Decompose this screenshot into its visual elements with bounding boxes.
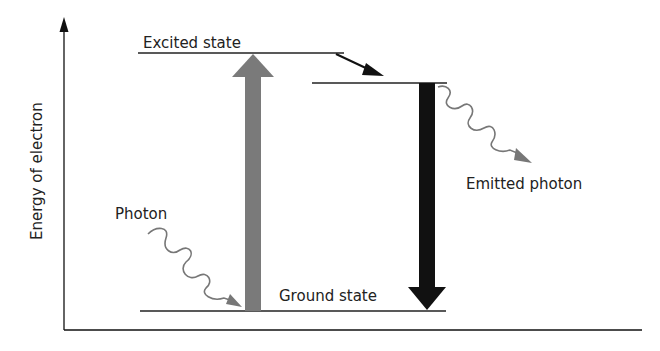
y-axis — [60, 17, 69, 330]
y-axis-arrow-icon — [60, 17, 69, 32]
incoming-photon-arrowhead-icon — [226, 294, 242, 307]
emitted-photon-wave-icon — [438, 86, 522, 155]
y-axis-label: Energy of electron — [28, 102, 46, 240]
photon-label: Photon — [115, 205, 167, 223]
emission-arrow-icon — [408, 83, 446, 310]
excited-state-label: Excited state — [143, 34, 241, 52]
emitted-photon-label: Emitted photon — [466, 175, 582, 193]
relaxation-arrow-icon — [336, 54, 384, 76]
incoming-photon-wave-icon — [148, 228, 236, 302]
ground-state-label: Ground state — [279, 287, 377, 305]
emitted-photon-arrowhead-icon — [514, 148, 532, 163]
absorption-arrow-icon — [232, 54, 274, 311]
